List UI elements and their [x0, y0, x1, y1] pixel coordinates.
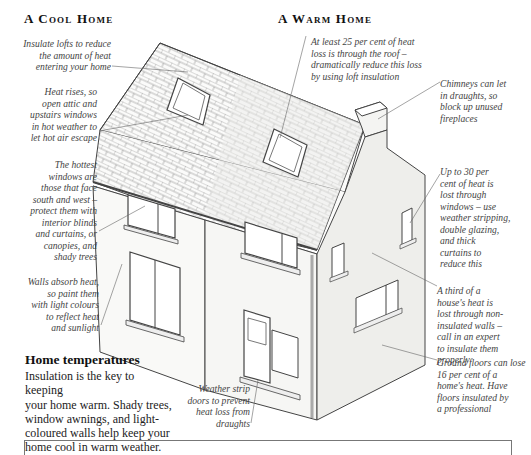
annotation-roof-loss: At least 25 per cent of heat loss is thr… — [311, 36, 471, 82]
annotation-walls-loss: A third of a house's heat is lost throug… — [437, 285, 531, 366]
annotation-chimneys: Chimneys can let in draughts, so block u… — [440, 78, 530, 124]
annotation-insulate-lofts: Insulate lofts to reduce the amount of h… — [0, 38, 111, 73]
annotation-ground-floors: Ground floors can lose 16 per cent of a … — [437, 357, 531, 415]
annotation-windows-loss: Up to 30 per cent of heat is lost throug… — [440, 166, 530, 270]
info-box-title: Home temperatures — [25, 352, 140, 368]
annotation-walls-absorb: Walls absorb heat, so paint them with li… — [0, 276, 99, 334]
annotation-hottest-windows: The hottest windows are those that face … — [0, 159, 97, 263]
annotation-heat-rises: Heat rises, so open attic and upstairs w… — [0, 86, 97, 144]
bottom-panel-border — [24, 440, 512, 455]
